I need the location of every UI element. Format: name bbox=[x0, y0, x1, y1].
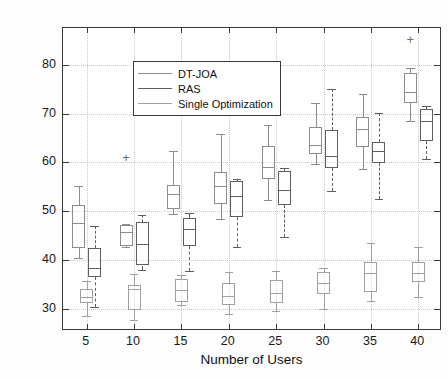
whisker-cap-lower bbox=[414, 297, 423, 298]
y-tick-label-80: 80 bbox=[30, 57, 56, 71]
x-tick-label-40: 40 bbox=[410, 334, 424, 348]
whisker-upper bbox=[371, 243, 372, 263]
whisker-upper bbox=[363, 94, 364, 116]
boxplot-figure: Delay of Emergency User(ms) Number of Us… bbox=[0, 0, 448, 380]
median-line bbox=[412, 273, 425, 274]
x-tick-mark bbox=[324, 324, 325, 329]
whisker-cap-upper bbox=[185, 213, 194, 214]
box-iqr bbox=[309, 127, 322, 153]
median-line bbox=[317, 283, 330, 284]
x-tick-mark bbox=[371, 324, 372, 329]
whisker-upper bbox=[418, 247, 419, 261]
whisker-lower bbox=[426, 141, 427, 159]
whisker-upper bbox=[79, 186, 80, 205]
whisker-lower bbox=[268, 179, 269, 200]
whisker-cap-lower bbox=[359, 169, 368, 170]
x-tick-mark bbox=[181, 28, 182, 33]
whisker-lower bbox=[221, 204, 222, 219]
whisker-cap-lower bbox=[216, 219, 225, 220]
outlier-marker: + bbox=[406, 33, 414, 46]
whisker-cap-lower bbox=[272, 311, 281, 312]
x-tick-mark bbox=[324, 28, 325, 33]
gridline-horizontal bbox=[63, 211, 440, 212]
whisker-cap-upper bbox=[327, 89, 336, 90]
x-tick-mark bbox=[181, 324, 182, 329]
whisker-cap-lower bbox=[225, 314, 234, 315]
whisker-cap-upper bbox=[74, 186, 83, 187]
whisker-cap-upper bbox=[422, 106, 431, 107]
x-tick-label-15: 15 bbox=[173, 334, 187, 348]
median-line bbox=[230, 196, 243, 197]
x-tick-mark bbox=[134, 324, 135, 329]
whisker-cap-upper bbox=[138, 215, 147, 216]
whisker-cap-lower bbox=[311, 164, 320, 165]
y-tick-mark bbox=[63, 114, 69, 115]
y-tick-mark bbox=[434, 65, 440, 66]
legend-item-dt-joa: DT-JOA bbox=[138, 66, 275, 81]
whisker-cap-upper bbox=[375, 113, 384, 114]
whisker-lower bbox=[134, 310, 135, 320]
plot-area: ++ DT-JOARASSingle Optimization bbox=[62, 27, 441, 330]
outlier-marker: + bbox=[122, 150, 130, 163]
whisker-upper bbox=[229, 272, 230, 282]
whisker-lower bbox=[79, 248, 80, 258]
x-tick-label-35: 35 bbox=[363, 334, 377, 348]
x-tick-mark bbox=[418, 28, 419, 33]
median-line bbox=[325, 156, 338, 157]
x-tick-label-30: 30 bbox=[316, 334, 330, 348]
whisker-lower bbox=[418, 282, 419, 297]
x-tick-mark bbox=[87, 324, 88, 329]
whisker-cap-lower bbox=[82, 316, 91, 317]
whisker-upper bbox=[87, 281, 88, 289]
median-line bbox=[278, 190, 291, 191]
whisker-upper bbox=[173, 151, 174, 186]
median-line bbox=[128, 289, 141, 290]
y-tick-mark bbox=[63, 65, 69, 66]
whisker-cap-upper bbox=[90, 226, 99, 227]
whisker-cap-lower bbox=[130, 320, 139, 321]
whisker-lower bbox=[229, 305, 230, 315]
whisker-lower bbox=[371, 292, 372, 301]
whisker-lower bbox=[332, 168, 333, 190]
legend-item-ras: RAS bbox=[138, 81, 275, 96]
box-iqr bbox=[278, 171, 291, 206]
y-tick-mark bbox=[434, 309, 440, 310]
whisker-upper bbox=[221, 134, 222, 172]
whisker-cap-upper bbox=[225, 272, 234, 273]
box-iqr bbox=[88, 248, 101, 277]
whisker-upper bbox=[276, 271, 277, 279]
whisker-cap-lower bbox=[169, 214, 178, 215]
legend-line-swatch bbox=[138, 88, 172, 89]
x-tick-mark bbox=[371, 28, 372, 33]
whisker-cap-upper bbox=[264, 125, 273, 126]
whisker-cap-lower bbox=[319, 309, 328, 310]
median-line bbox=[364, 273, 377, 274]
y-tick-label-70: 70 bbox=[30, 106, 56, 120]
whisker-cap-lower bbox=[233, 247, 242, 248]
whisker-cap-lower bbox=[327, 191, 336, 192]
box-iqr bbox=[262, 146, 275, 179]
median-line bbox=[372, 151, 385, 152]
median-line bbox=[183, 229, 196, 230]
whisker-cap-lower bbox=[177, 305, 186, 306]
box-iqr bbox=[230, 181, 243, 217]
median-line bbox=[420, 121, 433, 122]
whisker-cap-lower bbox=[90, 307, 99, 308]
median-line bbox=[80, 297, 93, 298]
whisker-cap-upper bbox=[359, 94, 368, 95]
whisker-cap-upper bbox=[177, 275, 186, 276]
median-line bbox=[262, 167, 275, 168]
median-line bbox=[214, 186, 227, 187]
box-iqr bbox=[128, 285, 141, 310]
box-iqr bbox=[120, 225, 133, 246]
median-line bbox=[356, 129, 369, 130]
y-tick-mark bbox=[434, 260, 440, 261]
whisker-cap-upper bbox=[169, 151, 178, 152]
whisker-cap-upper bbox=[272, 271, 281, 272]
box-iqr bbox=[222, 283, 235, 305]
whisker-cap-upper bbox=[233, 179, 242, 180]
legend-label: DT-JOA bbox=[178, 68, 217, 80]
box-iqr bbox=[356, 117, 369, 147]
x-tick-mark bbox=[276, 28, 277, 33]
whisker-upper bbox=[379, 113, 380, 142]
